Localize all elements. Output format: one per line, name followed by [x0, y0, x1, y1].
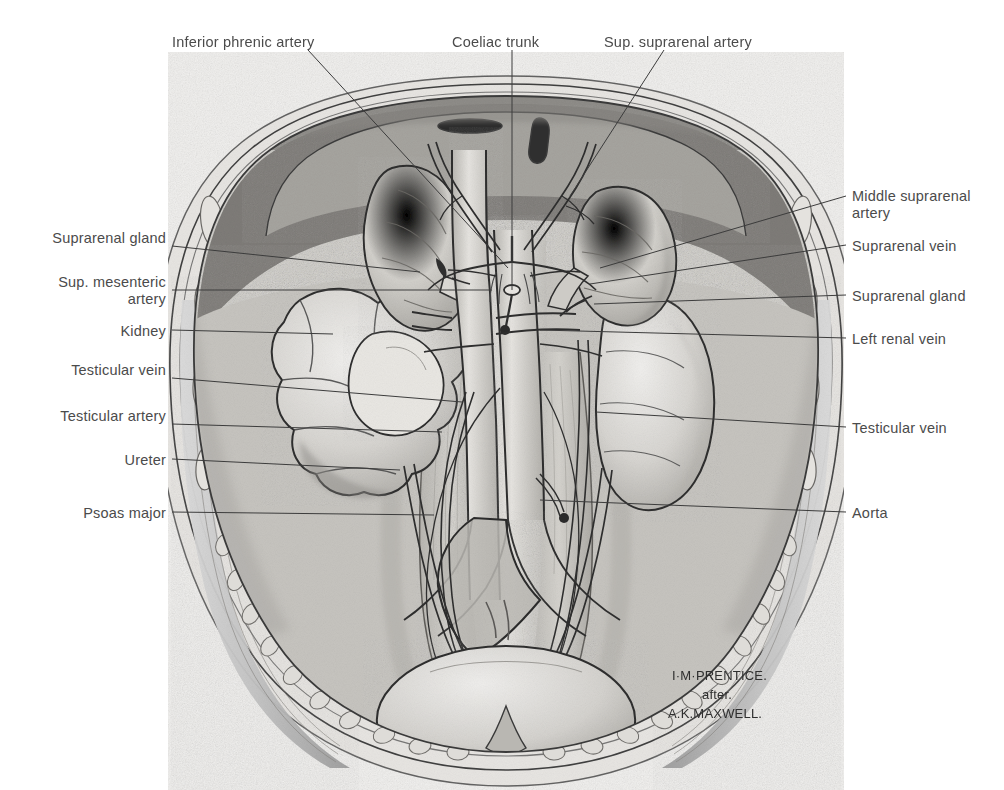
label-psoas-major: Psoas major — [20, 505, 166, 522]
label-sup-suprarenal-artery: Sup. suprarenal artery — [604, 34, 752, 51]
label-testicular-vein-left-side: Testicular vein — [20, 362, 166, 379]
svg-text:A.K.MAXWELL.: A.K.MAXWELL. — [668, 706, 762, 721]
abdominal-wall-illustration: I·M·PRENTICE. after. A.K.MAXWELL. — [0, 0, 1004, 790]
label-sup-mesenteric-artery: Sup. mesenteric artery — [20, 274, 166, 308]
label-middle-suprarenal-artery: Middle suprarenal artery — [852, 188, 1002, 222]
label-kidney-right: Kidney — [20, 323, 166, 340]
label-suprarenal-gland-left: Suprarenal gland — [852, 288, 1002, 305]
label-coeliac-trunk: Coeliac trunk — [452, 34, 539, 51]
label-testicular-artery: Testicular artery — [20, 408, 166, 425]
label-aorta: Aorta — [852, 505, 1002, 522]
label-testicular-vein-right-side: Testicular vein — [852, 420, 1002, 437]
label-suprarenal-vein: Suprarenal vein — [852, 238, 1002, 255]
svg-text:I·M·PRENTICE.: I·M·PRENTICE. — [672, 668, 767, 683]
anatomical-plate: I·M·PRENTICE. after. A.K.MAXWELL. Inferi… — [0, 0, 1004, 790]
label-left-renal-vein: Left renal vein — [852, 331, 1002, 348]
label-ureter: Ureter — [20, 452, 166, 469]
svg-text:after.: after. — [702, 687, 732, 702]
label-inferior-phrenic-artery: Inferior phrenic artery — [172, 34, 314, 51]
label-suprarenal-gland-right: Suprarenal gland — [20, 230, 166, 247]
